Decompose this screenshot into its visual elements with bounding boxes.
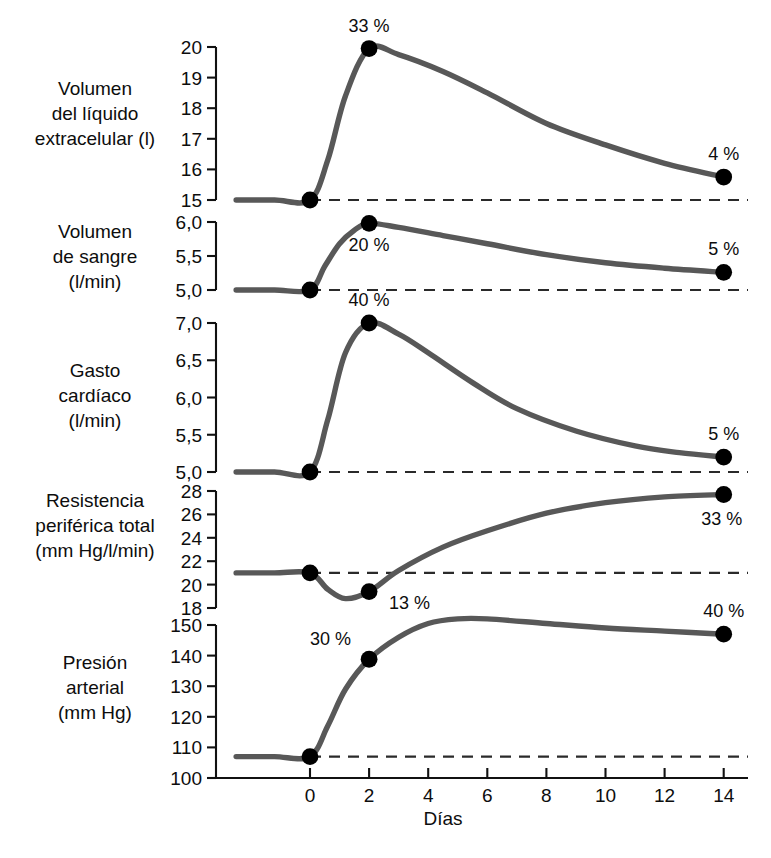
y-tick-label: 18 — [181, 98, 202, 119]
y-tick-label: 5,5 — [176, 246, 202, 267]
x-tick-label: 8 — [541, 785, 552, 806]
data-point-marker — [361, 651, 378, 668]
y-tick-label: 16 — [181, 159, 202, 180]
data-curve — [236, 322, 724, 475]
physiology-figure: Volumen del líquido extracelular (l) Vol… — [0, 0, 771, 858]
y-tick-label: 6,0 — [176, 388, 202, 409]
panel-2: 6,05,55,020 %5 % — [176, 212, 748, 301]
y-tick-label: 20 — [181, 575, 202, 596]
y-tick-label: 100 — [170, 768, 202, 789]
data-curve — [236, 495, 724, 599]
data-curve — [236, 46, 724, 203]
data-point-marker — [302, 282, 319, 299]
panel-4: 28262422201813 %33 % — [181, 481, 748, 619]
data-point-marker — [302, 192, 319, 209]
data-point-marker — [361, 315, 378, 332]
data-curve — [236, 223, 724, 291]
panels-layer: 20191817161533 %4 %6,05,55,020 %5 %7,06,… — [170, 16, 748, 789]
data-point-marker — [715, 486, 732, 503]
y-tick-label: 24 — [181, 528, 203, 549]
y-tick-label: 5,0 — [176, 280, 202, 301]
x-tick-label: 12 — [654, 785, 675, 806]
data-point-marker — [361, 40, 378, 57]
percent-annotation: 30 % — [310, 629, 351, 649]
data-point-marker — [715, 264, 732, 281]
y-tick-label: 17 — [181, 129, 202, 150]
percent-annotation: 40 % — [349, 290, 390, 310]
percent-annotation: 13 % — [389, 593, 430, 613]
y-tick-label: 6,0 — [176, 212, 202, 233]
panel-1: 20191817161533 %4 % — [181, 16, 748, 211]
chart-canvas: 20191817161533 %4 %6,05,55,020 %5 %7,06,… — [0, 0, 771, 858]
y-tick-label: 26 — [181, 504, 202, 525]
x-tick-label: 6 — [482, 785, 493, 806]
x-tick-label: 4 — [423, 785, 434, 806]
y-tick-label: 140 — [170, 646, 202, 667]
percent-annotation: 5 % — [708, 239, 739, 259]
y-tick-label: 150 — [170, 615, 202, 636]
y-tick-label: 28 — [181, 481, 202, 502]
y-tick-label: 7,0 — [176, 313, 202, 334]
data-point-marker — [715, 449, 732, 466]
percent-annotation: 4 % — [708, 144, 739, 164]
percent-annotation: 40 % — [703, 601, 744, 621]
x-tick-label: 0 — [305, 785, 316, 806]
y-tick-label: 5,5 — [176, 425, 202, 446]
x-axis-label: Días — [423, 808, 462, 829]
data-point-marker — [302, 565, 319, 582]
x-tick-label: 14 — [713, 785, 735, 806]
data-point-marker — [302, 464, 319, 481]
panel-5: 15014013012011010030 %40 % — [170, 601, 748, 789]
data-point-marker — [302, 748, 319, 765]
y-tick-label: 22 — [181, 551, 202, 572]
percent-annotation: 5 % — [708, 424, 739, 444]
x-axis: 02468101214 — [216, 768, 748, 806]
y-tick-label: 130 — [170, 676, 202, 697]
percent-annotation: 33 % — [701, 509, 742, 529]
x-tick-label: 10 — [595, 785, 616, 806]
y-tick-label: 120 — [170, 707, 202, 728]
y-tick-label: 15 — [181, 190, 202, 211]
data-point-marker — [715, 169, 732, 186]
y-tick-label: 20 — [181, 37, 202, 58]
x-tick-label: 2 — [364, 785, 375, 806]
y-tick-label: 19 — [181, 68, 202, 89]
data-point-marker — [361, 583, 378, 600]
y-tick-label: 6,5 — [176, 350, 202, 371]
data-point-marker — [361, 215, 378, 232]
y-tick-label: 5,0 — [176, 462, 202, 483]
percent-annotation: 20 % — [349, 235, 390, 255]
data-point-marker — [715, 626, 732, 643]
panel-3: 7,06,56,05,55,040 %5 % — [176, 290, 748, 483]
percent-annotation: 33 % — [349, 16, 390, 36]
y-tick-label: 110 — [172, 737, 202, 758]
